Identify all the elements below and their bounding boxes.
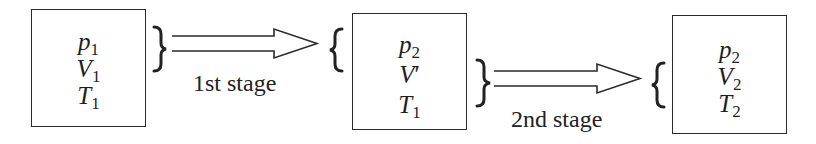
opening-brace-icon — [652, 63, 664, 107]
diagram-connectors — [0, 0, 816, 144]
stage-2-label: 2nd stage — [511, 106, 602, 133]
closing-brace-icon — [154, 27, 166, 71]
arrow-icon-stage-1 — [172, 29, 317, 58]
opening-brace-icon — [330, 29, 342, 71]
arrow-icon-stage-2 — [494, 64, 640, 93]
stage-1-label: 1st stage — [193, 70, 276, 97]
closing-brace-icon — [477, 60, 490, 106]
